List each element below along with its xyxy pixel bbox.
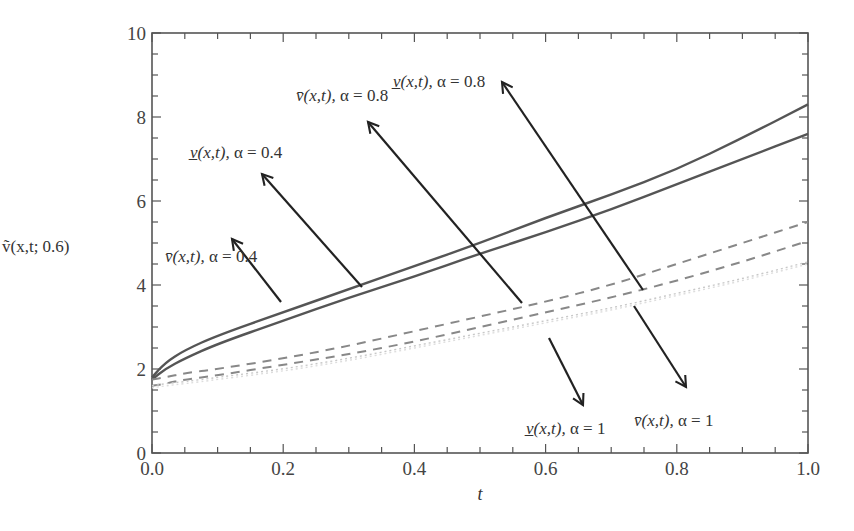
annotation-label: v̄(x,t), α = 0.8 [296,86,388,105]
x-tick-label: 0.6 [534,458,558,479]
y-tick-label: 4 [137,275,147,296]
annotation-label: v̲(x,t), α = 0.8 [391,72,485,91]
y-tick-label: 10 [127,23,146,44]
x-tick-label: 0.8 [665,458,689,479]
y-tick-label: 2 [137,359,147,380]
annotation-arrow [368,122,522,303]
annotation-label: v̄(x,t), α = 1 [634,411,713,430]
annotation-arrow [549,338,583,405]
x-tick-label: 1.0 [796,458,820,479]
chart-canvas: 0.00.20.40.60.81.00246810 v̄(x,t), α = 0… [0,0,854,531]
annotation-label: v̲(x,t), α = 1 [524,419,605,438]
annotation-arrow [634,306,686,387]
x-tick-label: 0.2 [271,458,295,479]
y-tick-label: 6 [137,191,147,212]
y-axis-label: ṽ(x,t; 0.6) [2,237,70,256]
annotation-arrow [502,82,643,290]
annotation-label: v̲(x,t), α = 0.4 [188,143,282,162]
x-axis-label: t [477,484,483,504]
y-tick-label: 0 [137,443,147,464]
x-tick-label: 0.4 [403,458,427,479]
annotation-arrows [232,82,686,405]
annotation-label: v̄(x,t), α = 0.4 [165,247,258,266]
series-line [152,222,808,380]
annotation-labels: v̄(x,t), α = 0.4v̲(x,t), α = 0.4v̄(x,t),… [165,72,713,438]
y-tick-label: 8 [137,107,147,128]
annotation-arrow [262,174,362,287]
